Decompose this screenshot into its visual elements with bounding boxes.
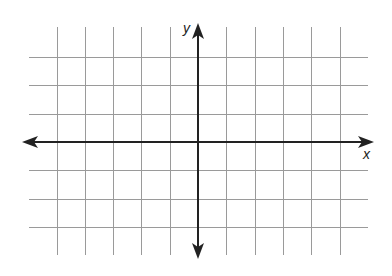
- x-axis-label: x: [363, 147, 370, 161]
- y-axis-label: y: [183, 21, 190, 35]
- coordinate-plane: [0, 0, 392, 276]
